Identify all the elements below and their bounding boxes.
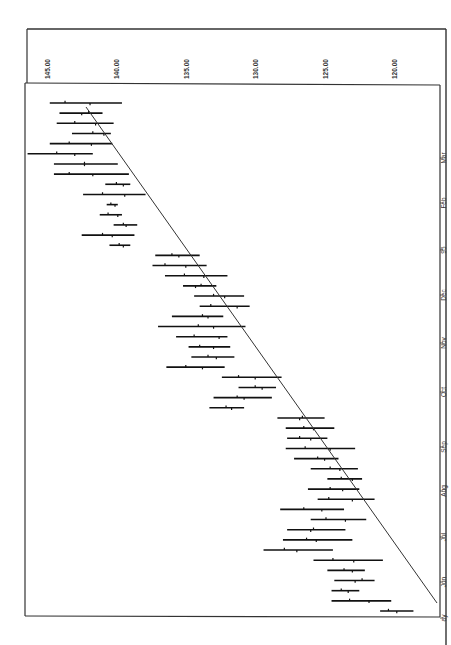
outer-frame — [27, 29, 446, 34]
plot-frame-top — [25, 83, 440, 85]
price-axis-labels: 145.00140.00135.00130.00125.00120.00 — [44, 59, 398, 79]
price-tick-label: 120.00 — [391, 59, 398, 79]
price-tick-label: 140.00 — [113, 59, 120, 79]
price-tick-label: 145.00 — [44, 59, 51, 79]
ohlc-bars — [28, 101, 414, 613]
trend-line — [86, 107, 437, 603]
plot-frame-bottom — [25, 616, 440, 617]
price-tick-label: 125.00 — [322, 59, 329, 79]
ohlc-chart: 145.00140.00135.00130.00125.00120.00 ayJ… — [0, 0, 451, 645]
chart-stage: 145.00140.00135.00130.00125.00120.00 ayJ… — [0, 0, 451, 645]
price-tick-label: 130.00 — [252, 59, 259, 79]
month-tick-label: Mar — [440, 152, 447, 164]
time-axis-labels: ayJunJulAugSepOctNovDec95FebMar — [440, 152, 448, 622]
price-tick-label: 135.00 — [183, 59, 190, 79]
